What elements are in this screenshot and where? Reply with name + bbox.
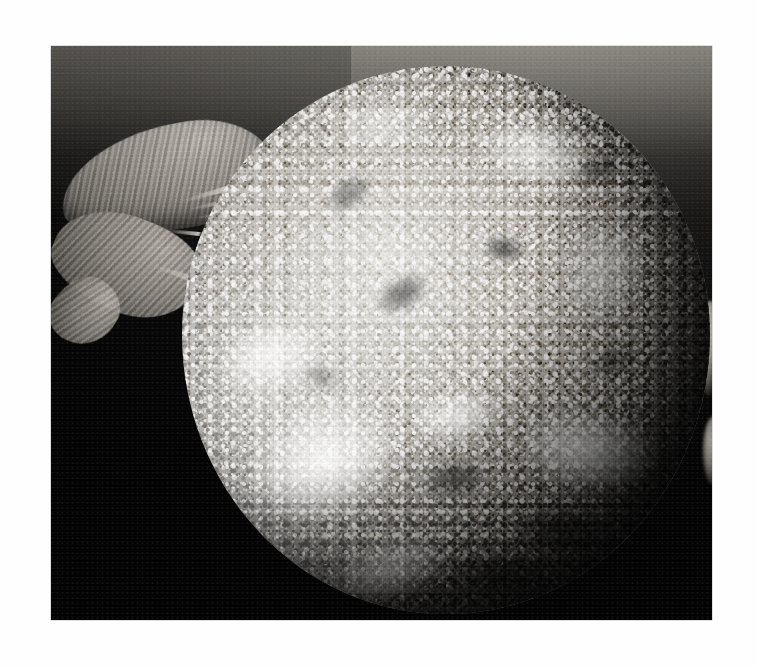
limb-terminator-shadow (182, 66, 710, 614)
page-canvas: Grayscale micrograph of a near-spherical… (0, 0, 757, 667)
micrograph-plate: Grayscale micrograph of a near-spherical… (51, 46, 712, 620)
spherical-specimen (182, 66, 710, 614)
